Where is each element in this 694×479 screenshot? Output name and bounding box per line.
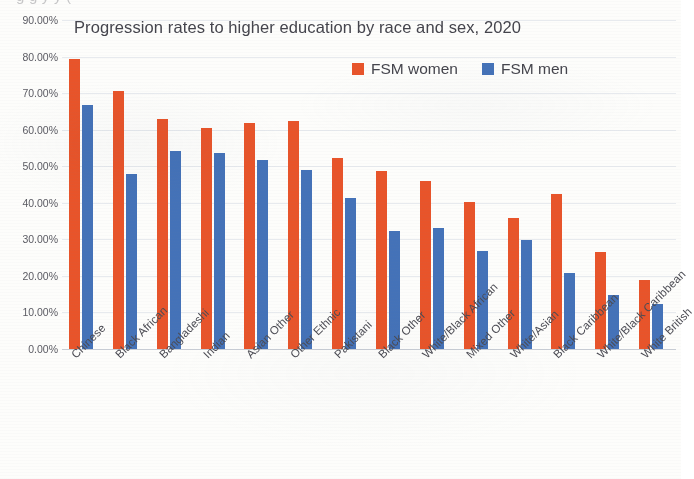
- bar-group: [237, 20, 281, 349]
- y-axis-tick-label: 60.00%: [2, 124, 58, 136]
- bar-fsm-women: [244, 123, 255, 349]
- y-axis-tick-label: 40.00%: [2, 197, 58, 209]
- x-axis-labels: ChineseBlack AfricanBangladeshiIndianAsi…: [62, 352, 676, 479]
- bar-fsm-men: [214, 153, 225, 349]
- bar-group: [194, 20, 238, 349]
- bar-fsm-women: [69, 59, 80, 349]
- y-axis: 90.00%80.00%70.00%60.00%50.00%40.00%30.0…: [0, 20, 58, 349]
- y-axis-tick-label: 80.00%: [2, 51, 58, 63]
- bar-fsm-women: [551, 194, 562, 349]
- bar-group: [325, 20, 369, 349]
- bar-fsm-women: [508, 218, 519, 349]
- bar-fsm-women: [464, 202, 475, 349]
- bar-fsm-women: [113, 91, 124, 349]
- x-axis-line: [62, 349, 676, 350]
- y-axis-tick-label: 70.00%: [2, 87, 58, 99]
- bar-fsm-men: [126, 174, 137, 349]
- y-axis-tick-label: 10.00%: [2, 306, 58, 318]
- bar-group: [62, 20, 106, 349]
- bar-group: [369, 20, 413, 349]
- bar-fsm-men: [170, 151, 181, 349]
- bar-fsm-men: [301, 170, 312, 349]
- bar-fsm-women: [376, 171, 387, 349]
- y-axis-tick-label: 20.00%: [2, 270, 58, 282]
- bar-group: [106, 20, 150, 349]
- bar-fsm-women: [420, 181, 431, 349]
- bar-group: [501, 20, 545, 349]
- bar-fsm-men: [345, 198, 356, 349]
- plot-area: [62, 20, 676, 349]
- bar-group: [150, 20, 194, 349]
- y-axis-tick-label: 0.00%: [2, 343, 58, 355]
- bar-fsm-men: [257, 160, 268, 349]
- bar-group: [281, 20, 325, 349]
- bar-fsm-men: [82, 105, 93, 349]
- bar-group: [544, 20, 588, 349]
- bar-group: [413, 20, 457, 349]
- y-axis-tick-label: 50.00%: [2, 160, 58, 172]
- y-axis-tick-label: 30.00%: [2, 233, 58, 245]
- y-axis-tick-label: 90.00%: [2, 14, 58, 26]
